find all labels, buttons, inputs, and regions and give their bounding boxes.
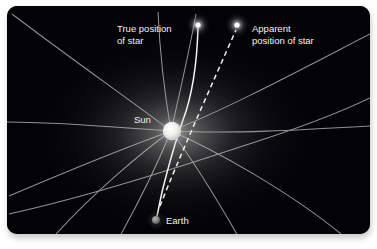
earth-body [152, 216, 160, 224]
earth-marker [149, 213, 163, 227]
true-position-label-line1: True position [117, 23, 172, 34]
gravitational-lensing-figure: True position of star Apparent position … [0, 0, 377, 249]
apparent-position-label-line2: position of star [252, 35, 314, 46]
sun-label: Sun [134, 114, 151, 125]
apparent-position-label-line1: Apparent [252, 23, 291, 34]
apparent-star-marker [224, 12, 250, 38]
diagram-canvas: True position of star Apparent position … [0, 0, 377, 249]
true-position-label-line2: of star [117, 35, 143, 46]
earth-label: Earth [166, 215, 189, 226]
true-star-marker [185, 12, 211, 38]
apparent-star-core [234, 22, 239, 27]
sun-marker [152, 111, 192, 151]
true-star-core [195, 22, 200, 27]
sun-body [163, 122, 181, 140]
